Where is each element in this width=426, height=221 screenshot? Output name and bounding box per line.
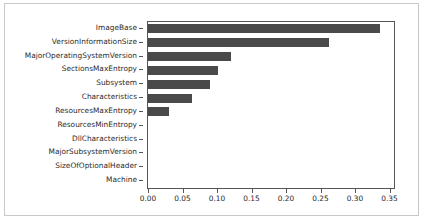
y-axis-tick-label: ImageBase xyxy=(96,21,137,35)
plot-area xyxy=(147,21,395,189)
y-axis-tick-mark xyxy=(139,69,143,70)
y-axis-tick-mark xyxy=(139,83,143,84)
bar xyxy=(148,66,218,75)
y-axis-tick-mark xyxy=(139,180,143,181)
y-axis-tick-mark xyxy=(139,42,143,43)
bar xyxy=(148,107,169,116)
y-axis-tick-label: ResourcesMinEntropy xyxy=(57,118,137,132)
y-axis-tick-mark xyxy=(139,28,143,29)
x-axis-tick-label: 0.35 xyxy=(370,194,410,203)
bar xyxy=(148,24,380,33)
x-axis-tick-mark xyxy=(183,189,184,193)
y-axis-tick-label: MajorOperatingSystemVersion xyxy=(25,49,137,63)
figure-panel: ImageBaseVersionInformationSizeMajorOper… xyxy=(4,3,419,216)
x-axis-tick-mark xyxy=(355,189,356,193)
y-axis-tick-mark xyxy=(139,139,143,140)
y-axis-tick-mark xyxy=(139,97,143,98)
y-axis-tick-mark xyxy=(139,166,143,167)
y-axis-tick-label: SectionsMaxEntropy xyxy=(62,62,137,76)
y-axis-tick-label: Machine xyxy=(106,173,137,187)
y-axis-tick-mark xyxy=(139,56,143,57)
x-axis: 0.000.050.100.150.200.250.300.35 xyxy=(147,189,395,213)
bar xyxy=(148,52,231,61)
bar xyxy=(148,94,192,103)
x-axis-tick-mark xyxy=(252,189,253,193)
bar xyxy=(148,80,210,89)
y-axis-tick-mark xyxy=(139,111,143,112)
x-axis-tick-mark xyxy=(321,189,322,193)
y-axis-tick-label: SizeOfOptionalHeader xyxy=(55,159,137,173)
y-axis-tick-label: ResourcesMaxEntropy xyxy=(55,104,137,118)
y-axis-tick-mark xyxy=(139,152,143,153)
x-axis-tick-mark xyxy=(286,189,287,193)
y-axis-tick-label: DllCharacteristics xyxy=(72,132,137,146)
x-axis-tick-mark xyxy=(390,189,391,193)
y-axis-tick-mark xyxy=(139,125,143,126)
bar xyxy=(148,38,329,47)
x-axis-tick-mark xyxy=(148,189,149,193)
y-axis-tick-label: MajorSubsystemVersion xyxy=(49,145,137,159)
y-axis-tick-label: VersionInformationSize xyxy=(52,35,137,49)
y-axis-tick-label: Subsystem xyxy=(96,76,137,90)
x-axis-tick-mark xyxy=(217,189,218,193)
y-axis-tick-label: Characteristics xyxy=(82,90,137,104)
y-axis-labels: ImageBaseVersionInformationSizeMajorOper… xyxy=(5,21,143,189)
